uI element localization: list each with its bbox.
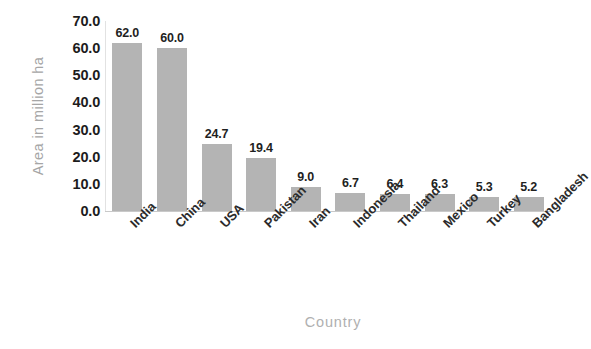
- bar-value-label: 60.0: [144, 31, 200, 45]
- category-slot: Pakistan: [239, 216, 283, 316]
- y-axis-tick-label: 10.0: [44, 176, 100, 192]
- category-slot: Bangladesh: [507, 216, 551, 316]
- bar-value-label: 5.2: [501, 180, 557, 194]
- bar[interactable]: [157, 48, 187, 211]
- y-axis-tick-label: 50.0: [44, 67, 100, 83]
- category-slot: Iran: [284, 216, 328, 316]
- bar-slot: 9.0: [284, 21, 328, 211]
- bar[interactable]: [202, 144, 232, 211]
- y-axis-tick-label: 0.0: [44, 203, 100, 219]
- y-axis-tick-label: 70.0: [44, 13, 100, 29]
- bar[interactable]: [246, 158, 276, 211]
- bar-slot: 24.7: [195, 21, 239, 211]
- category-slot: Indonesia: [328, 216, 372, 316]
- bar-slot: 60.0: [150, 21, 194, 211]
- x-axis-title: Country: [268, 314, 398, 330]
- plot-area: 62.060.024.719.49.06.76.46.35.35.2: [105, 21, 551, 212]
- y-axis-tick-label: 60.0: [44, 40, 100, 56]
- bar-series: 62.060.024.719.49.06.76.46.35.35.2: [105, 21, 551, 212]
- bar-slot: 6.3: [418, 21, 462, 211]
- y-axis-tick-label: 30.0: [44, 122, 100, 138]
- category-slot: Turkey: [462, 216, 506, 316]
- bar[interactable]: [112, 43, 142, 211]
- bar-slot: 62.0: [105, 21, 149, 211]
- category-slot: USA: [195, 216, 239, 316]
- bar-slot: 6.7: [328, 21, 372, 211]
- bar-value-label: 19.4: [233, 141, 289, 155]
- bar-value-label: 24.7: [189, 127, 245, 141]
- bar-slot: 5.3: [462, 21, 506, 211]
- category-slot: India: [105, 216, 149, 316]
- category-slot: Thailand: [373, 216, 417, 316]
- bar-slot: 5.2: [507, 21, 551, 211]
- x-axis-categories: IndiaChinaUSAPakistanIranIndonesiaThaila…: [105, 216, 551, 316]
- y-axis-tick-label: 40.0: [44, 94, 100, 110]
- y-axis-ticks: 70.060.050.040.030.020.010.00.0: [40, 0, 100, 349]
- category-slot: Mexico: [418, 216, 462, 316]
- y-axis-tick-label: 20.0: [44, 149, 100, 165]
- category-slot: China: [150, 216, 194, 316]
- bar-slot: 19.4: [239, 21, 283, 211]
